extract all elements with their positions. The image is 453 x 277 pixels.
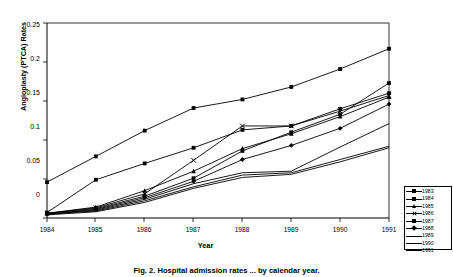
chart-figure: Angioplasty (PTCA) Rates 0.25 0.2 0.15 0… [0,0,453,277]
legend-marker-x-icon [406,210,422,217]
series-1987 [45,81,391,215]
legend-marker-line-icon [406,247,422,254]
series-1986 [45,93,392,215]
legend-marker-square-icon [406,196,422,203]
plot-area [0,0,453,277]
legend-label: 1989 [422,232,434,239]
legend-marker-triangle-icon [406,203,422,210]
legend-item: 1985 [406,203,450,210]
legend-marker-line-icon [406,233,422,240]
legend-marker-square-icon [406,218,422,225]
x-tick-marks [47,218,389,222]
legend-item: 1986 [406,210,450,217]
figure-caption: Fig. 2. Hospital admission rates ... by … [0,266,453,275]
legend-item: 1991 [406,247,450,254]
series-1989 [47,124,389,214]
legend-marker-line-icon [406,240,422,247]
legend-item: 1990 [406,240,450,247]
legend-marker-diamond-icon [406,225,422,232]
legend-item: 1987 [406,218,450,225]
legend-label: 1990 [422,240,434,247]
legend-label: 1986 [422,210,434,217]
legend-label: 1985 [422,203,434,210]
axes-frame [47,23,389,218]
legend-item: 1989 [406,232,450,239]
series-1988 [45,102,392,217]
legend-item: 1988 [406,225,450,232]
legend-item: 1984 [406,195,450,202]
data-series-layer [45,47,392,217]
chart-legend: 1983 1984 1985 1986 1987 1988 1989 1990 [404,186,452,250]
x-axis-title: Year [0,241,453,250]
legend-label: 1987 [422,218,434,225]
legend-label: 1991 [422,247,434,254]
legend-item: 1983 [406,188,450,195]
y-tick-marks [43,23,47,218]
series-1990 [47,146,389,214]
legend-label: 1984 [422,195,434,202]
legend-label: 1983 [422,188,434,195]
legend-label: 1988 [422,225,434,232]
legend-marker-square-icon [406,188,422,195]
